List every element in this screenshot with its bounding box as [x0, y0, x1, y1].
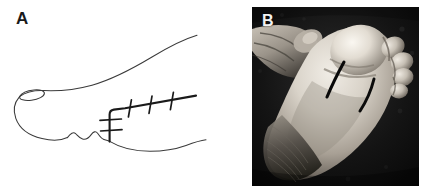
- web-incision-tick-mark-1: [100, 119, 121, 120]
- panel-a: A: [0, 0, 226, 192]
- panel-b: B: [252, 7, 419, 186]
- foot-schematic-drawing: [0, 0, 226, 192]
- web-incision-tick-mark-2: [101, 130, 122, 131]
- hallux-pulp-contour: [14, 97, 67, 140]
- plantar-contour-line: [110, 140, 206, 151]
- panel-b-label: B: [262, 13, 274, 29]
- main-incision-line: [110, 96, 196, 142]
- toe-scallop-line: [67, 132, 104, 140]
- dorsal-contour-line: [20, 35, 198, 96]
- figure-root: A B: [0, 0, 426, 192]
- clinical-photograph-foot-sole: [252, 7, 419, 186]
